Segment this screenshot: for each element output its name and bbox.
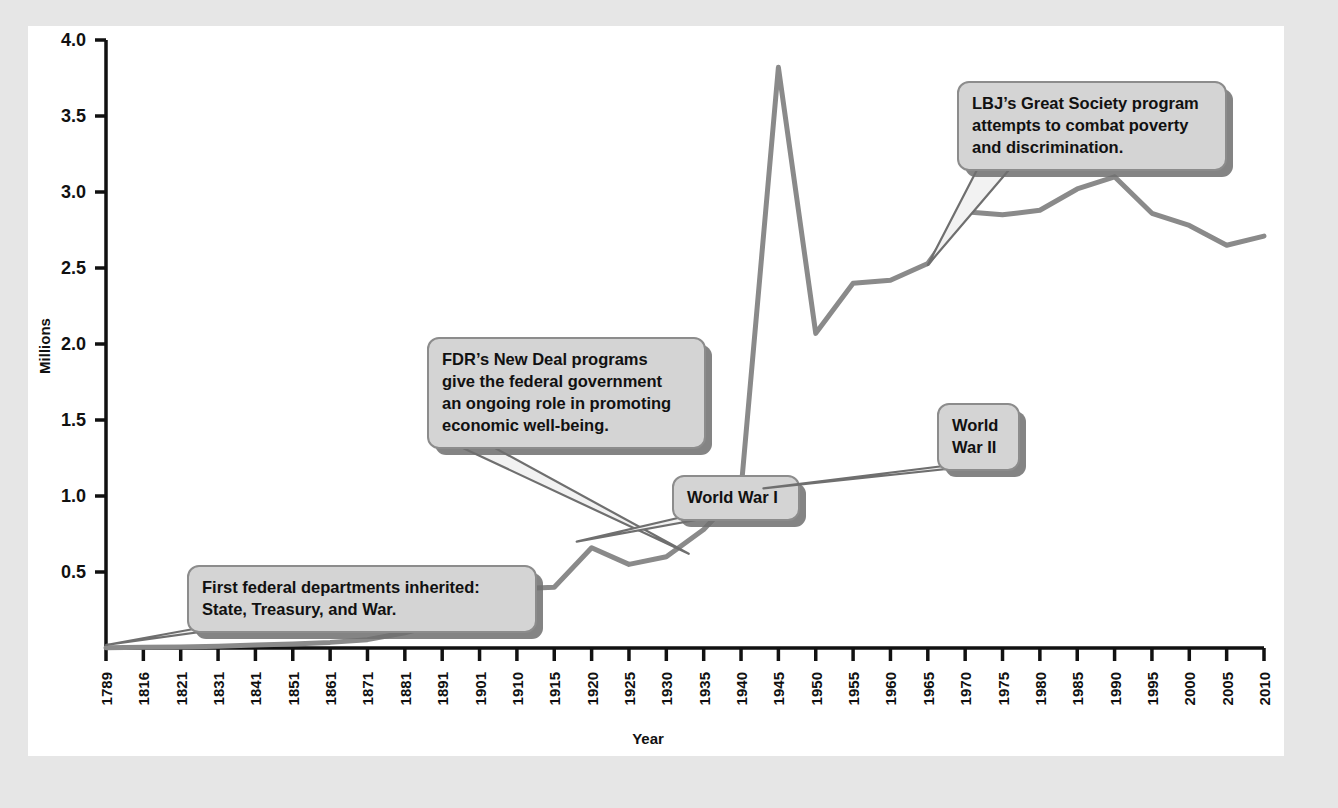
y-axis-ticks: 0.51.01.52.02.53.03.54.0 (61, 30, 106, 582)
callout-box (938, 404, 1019, 470)
x-tick-label: 1891 (434, 672, 451, 705)
x-tick-label: 1871 (359, 672, 376, 705)
x-axis-label: Year (632, 730, 664, 747)
x-tick-label: 2000 (1181, 672, 1198, 705)
callout-line: and discrimination. (972, 138, 1123, 156)
x-tick-label: 1945 (770, 672, 787, 705)
callout-line: FDR’s New Deal programs (442, 350, 648, 368)
callout-line: give the federal government (442, 372, 663, 390)
x-tick-label: 1980 (1032, 672, 1049, 705)
callout-world-war-ii: WorldWar II (763, 404, 1026, 488)
callout-pointer (450, 442, 689, 554)
callout-line: economic well-being. (442, 416, 609, 434)
callout-line: an ongoing role in promoting (442, 394, 671, 412)
y-tick-label: 2.5 (61, 258, 86, 278)
x-tick-label: 1821 (173, 672, 190, 705)
x-tick-label: 1970 (957, 672, 974, 705)
x-tick-label: 1955 (845, 672, 862, 705)
x-tick-label: 1930 (658, 672, 675, 705)
y-axis-label: Millions (36, 318, 53, 374)
x-tick-label: 1985 (1069, 672, 1086, 705)
x-tick-label: 1960 (882, 672, 899, 705)
y-tick-label: 4.0 (61, 30, 86, 50)
x-tick-label: 1990 (1107, 672, 1124, 705)
x-tick-label: 2010 (1256, 672, 1273, 705)
x-tick-label: 1995 (1144, 672, 1161, 705)
callout-line: World War I (687, 488, 778, 506)
x-tick-label: 1915 (546, 672, 563, 705)
x-tick-label: 1789 (98, 672, 115, 705)
x-tick-label: 1975 (995, 672, 1012, 705)
y-tick-label: 1.5 (61, 410, 86, 430)
y-tick-label: 2.0 (61, 334, 86, 354)
x-tick-label: 1841 (247, 672, 264, 705)
x-tick-label: 1925 (621, 672, 638, 705)
x-tick-label: 1910 (509, 672, 526, 705)
callout-line: World (952, 416, 998, 434)
callout-world-war-i: World War I (577, 476, 806, 542)
x-tick-label: 2005 (1219, 672, 1236, 705)
callout-line: State, Treasury, and War. (202, 600, 396, 618)
x-tick-label: 1851 (285, 672, 302, 705)
federal-employment-line-chart: 0.51.01.52.02.53.03.54.0 178918161821183… (28, 26, 1284, 756)
figure-panel: 0.51.01.52.02.53.03.54.0 178918161821183… (28, 26, 1284, 756)
y-tick-label: 3.0 (61, 182, 86, 202)
callout-line: attempts to combat poverty (972, 116, 1189, 134)
x-tick-label: 1816 (135, 672, 152, 705)
x-tick-label: 1940 (733, 672, 750, 705)
x-tick-label: 1935 (696, 672, 713, 705)
callout-line: First federal departments inherited: (202, 578, 480, 596)
x-tick-label: 1965 (920, 672, 937, 705)
y-tick-label: 1.0 (61, 486, 86, 506)
x-tick-label: 1861 (322, 672, 339, 705)
x-tick-label: 1950 (808, 672, 825, 705)
x-tick-label: 1881 (397, 672, 414, 705)
x-tick-label: 1831 (210, 672, 227, 705)
y-tick-label: 0.5 (61, 562, 86, 582)
callout-lbj-great-society: LBJ’s Great Society programattempts to c… (928, 82, 1233, 265)
callouts: First federal departments inherited:Stat… (106, 82, 1233, 645)
x-tick-label: 1901 (472, 672, 489, 705)
callout-line: LBJ’s Great Society program (972, 94, 1199, 112)
callout-first-departments: First federal departments inherited:Stat… (106, 566, 543, 645)
x-tick-label: 1920 (584, 672, 601, 705)
callout-box (188, 566, 536, 632)
y-tick-label: 3.5 (61, 106, 86, 126)
x-axis-ticks: 1789181618211831184118511861187118811891… (98, 648, 1273, 705)
callout-line: War II (952, 438, 996, 456)
